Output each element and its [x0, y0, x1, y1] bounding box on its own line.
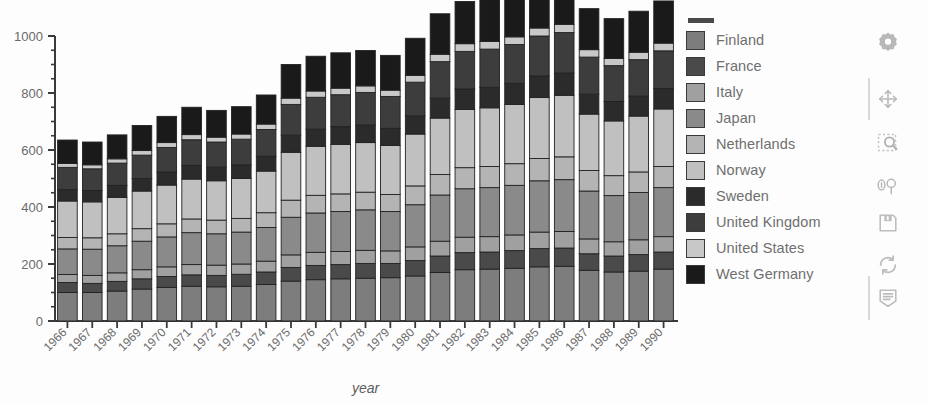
bar-segment[interactable] — [157, 185, 177, 224]
bar-segment[interactable] — [554, 266, 574, 321]
bar-segment[interactable] — [356, 86, 376, 93]
bar-segment[interactable] — [604, 256, 624, 272]
bar-segment[interactable] — [132, 279, 152, 289]
bar-segment[interactable] — [356, 92, 376, 124]
bar-segment[interactable] — [157, 172, 177, 185]
legend-item-west-germany[interactable]: West Germany — [686, 261, 856, 287]
bar-segment[interactable] — [256, 228, 276, 262]
bar-segment[interactable] — [480, 269, 500, 321]
bar-segment[interactable] — [530, 159, 550, 181]
bar-segment[interactable] — [306, 146, 326, 195]
zoom-rect-icon-button[interactable] — [872, 127, 904, 159]
bar-segment[interactable] — [430, 118, 450, 174]
bar-segment[interactable] — [331, 212, 351, 252]
bar-segment[interactable] — [82, 169, 102, 191]
bar-group[interactable] — [654, 1, 674, 321]
bar-segment[interactable] — [331, 279, 351, 321]
bar-segment[interactable] — [505, 83, 525, 104]
bar-segment[interactable] — [480, 108, 500, 167]
bar-segment[interactable] — [58, 163, 78, 167]
bar-group[interactable] — [405, 38, 425, 321]
bar-segment[interactable] — [82, 165, 102, 169]
bar-segment[interactable] — [530, 36, 550, 76]
bar-segment[interactable] — [579, 57, 599, 94]
bar-segment[interactable] — [381, 263, 401, 277]
bar-segment[interactable] — [455, 189, 475, 237]
bar-segment[interactable] — [281, 98, 301, 104]
bar-segment[interactable] — [157, 224, 177, 237]
legend-item-sweden[interactable]: Sweden — [686, 183, 856, 209]
bar-segment[interactable] — [654, 51, 674, 89]
subplot-config-icon-button[interactable] — [872, 170, 904, 202]
bar-group[interactable] — [530, 0, 550, 321]
bar-segment[interactable] — [182, 233, 202, 265]
bar-group[interactable] — [132, 125, 152, 321]
bar-segment[interactable] — [82, 238, 102, 249]
bar-segment[interactable] — [505, 235, 525, 251]
bar-segment[interactable] — [306, 265, 326, 279]
bar-group[interactable] — [381, 55, 401, 321]
bar-segment[interactable] — [579, 50, 599, 57]
bar-segment[interactable] — [207, 220, 227, 234]
bar-segment[interactable] — [207, 275, 227, 286]
bar-segment[interactable] — [455, 270, 475, 321]
bar-group[interactable] — [231, 107, 251, 321]
bar-segment[interactable] — [554, 248, 574, 266]
bar-segment[interactable] — [604, 19, 624, 59]
bar-group[interactable] — [356, 51, 376, 321]
bar-segment[interactable] — [58, 201, 78, 237]
bar-segment[interactable] — [654, 1, 674, 43]
bar-segment[interactable] — [405, 38, 425, 75]
legend-item-netherlands[interactable]: Netherlands — [686, 131, 856, 157]
notes-document-icon-button[interactable] — [872, 282, 904, 314]
bar-segment[interactable] — [331, 194, 351, 212]
bar-segment[interactable] — [405, 134, 425, 186]
bar-group[interactable] — [306, 56, 326, 321]
bar-segment[interactable] — [604, 176, 624, 196]
bar-segment[interactable] — [231, 179, 251, 219]
bar-segment[interactable] — [430, 241, 450, 256]
bar-segment[interactable] — [207, 265, 227, 275]
bar-segment[interactable] — [281, 217, 301, 255]
bar-segment[interactable] — [107, 273, 127, 282]
bar-segment[interactable] — [306, 280, 326, 321]
bar-segment[interactable] — [157, 116, 177, 142]
bar-segment[interactable] — [182, 179, 202, 219]
settings-gear-icon-button[interactable] — [872, 26, 904, 58]
bar-segment[interactable] — [281, 281, 301, 321]
bar-group[interactable] — [256, 95, 276, 321]
bar-segment[interactable] — [579, 94, 599, 114]
bar-segment[interactable] — [579, 9, 599, 50]
bar-segment[interactable] — [356, 250, 376, 263]
legend-item-norway[interactable]: Norway — [686, 157, 856, 183]
bar-segment[interactable] — [654, 88, 674, 109]
bar-segment[interactable] — [231, 286, 251, 321]
bar-segment[interactable] — [281, 152, 301, 200]
bar-segment[interactable] — [480, 49, 500, 87]
bar-group[interactable] — [157, 116, 177, 321]
bar-segment[interactable] — [505, 185, 525, 235]
bar-segment[interactable] — [107, 291, 127, 321]
bar-segment[interactable] — [182, 135, 202, 140]
bar-segment[interactable] — [331, 127, 351, 145]
bar-segment[interactable] — [430, 273, 450, 321]
bar-segment[interactable] — [604, 121, 624, 176]
bar-segment[interactable] — [207, 287, 227, 321]
bar-segment[interactable] — [480, 87, 500, 108]
bar-segment[interactable] — [480, 237, 500, 252]
bar-group[interactable] — [281, 65, 301, 322]
bar-segment[interactable] — [455, 51, 475, 89]
bar-segment[interactable] — [480, 0, 500, 41]
bar-segment[interactable] — [604, 102, 624, 121]
bar-segment[interactable] — [182, 286, 202, 321]
bar-group[interactable] — [480, 0, 500, 321]
bar-segment[interactable] — [530, 28, 550, 36]
bar-segment[interactable] — [231, 218, 251, 232]
chart-figure[interactable]: 0200400600800100019661967196819691970197… — [0, 0, 690, 406]
bar-segment[interactable] — [231, 134, 251, 139]
bar-segment[interactable] — [182, 265, 202, 275]
bar-segment[interactable] — [256, 171, 276, 213]
bar-segment[interactable] — [157, 287, 177, 321]
bar-segment[interactable] — [405, 75, 425, 82]
pan-move-icon-button[interactable] — [872, 83, 904, 115]
